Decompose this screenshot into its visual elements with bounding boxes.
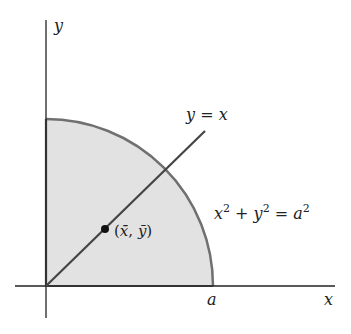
quarter-circle-centroid-diagram: y x a y = x x2 + y2 = a2 (x̄, ȳ): [0, 0, 351, 334]
x-axis-label: x: [324, 290, 333, 309]
y-axis-label: y: [53, 16, 64, 35]
circle-equation-label: x2 + y2 = a2: [214, 202, 310, 223]
centroid-point: [101, 225, 109, 233]
line-equation-label: y = x: [185, 105, 228, 124]
centroid-label: (x̄, ȳ): [114, 222, 152, 240]
radius-a-label: a: [207, 290, 217, 309]
